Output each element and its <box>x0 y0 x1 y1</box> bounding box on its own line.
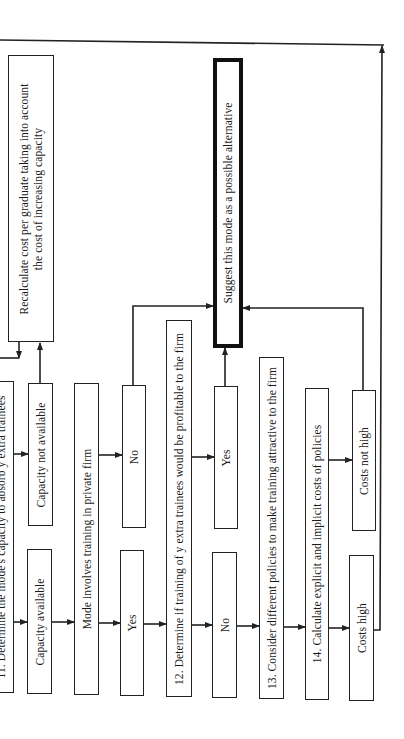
capacity-not-available-label: Capacity not available <box>34 402 48 507</box>
suggest-box: Suggest this mode as a possible alternat… <box>213 58 243 348</box>
costs-not-high-label: Costs not high <box>357 427 371 495</box>
no1-label: No <box>127 449 141 463</box>
recalculate-line2: the cost of increasing capacity <box>32 127 44 269</box>
yes1-label: Yes <box>125 614 139 631</box>
capacity-available-label: Capacity available <box>33 578 47 665</box>
recalculate-line1: Recalculate cost per graduate taking int… <box>18 83 30 314</box>
mode-private-firm-box: Mode involves training in private firm <box>74 383 99 695</box>
connector-lines <box>0 0 404 739</box>
step12-box: 12. Determine if training of y extra tra… <box>166 320 192 697</box>
costs-high-label: Costs high <box>355 603 369 653</box>
recalculate-label: Recalculate cost per graduate taking int… <box>17 59 45 339</box>
costs-high-box: Costs high <box>349 555 374 701</box>
costs-not-high-box: Costs not high <box>352 390 376 531</box>
step14-label: 14. Calculate explicit and implicit cost… <box>310 425 324 663</box>
yes2-label: Yes <box>219 449 233 466</box>
step11-label: 11. Determine the mode's capacity to abs… <box>0 396 8 679</box>
mode-private-firm-label: Mode involves training in private firm <box>80 449 94 629</box>
suggest-label: Suggest this mode as a possible alternat… <box>221 102 235 303</box>
yes2-box: Yes <box>214 386 238 529</box>
step14-box: 14. Calculate explicit and implicit cost… <box>305 388 329 700</box>
no1-box: No <box>122 385 146 528</box>
step13-box: 13. Consider different policies to make … <box>259 357 284 699</box>
no2-label: No <box>218 618 232 632</box>
no2-box: No <box>212 552 237 698</box>
recalculate-box: Recalculate cost per graduate taking int… <box>8 55 54 342</box>
capacity-not-available-box: Capacity not available <box>28 383 53 526</box>
step12-label: 12. Determine if training of y extra tra… <box>172 333 186 685</box>
step13-label: 13. Consider different policies to make … <box>265 367 279 689</box>
step11-box: 11. Determine the mode's capacity to abs… <box>0 381 14 693</box>
yes1-box: Yes <box>120 550 144 696</box>
capacity-available-box: Capacity available <box>27 549 52 694</box>
